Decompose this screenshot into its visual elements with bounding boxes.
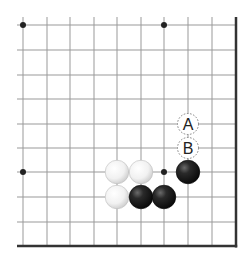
label-marker-b: B	[178, 138, 199, 159]
stones	[105, 160, 200, 209]
white-stone	[105, 185, 129, 209]
white-stone	[129, 160, 153, 184]
black-stone	[129, 185, 153, 209]
star-point	[161, 22, 167, 28]
star-point	[20, 22, 26, 28]
label-text: A	[183, 116, 194, 133]
star-point	[20, 169, 26, 175]
white-stone	[105, 160, 129, 184]
label-marker-a: A	[178, 114, 199, 135]
grid-lines	[17, 17, 236, 246]
go-board: AB	[0, 0, 248, 258]
label-text: B	[183, 140, 194, 157]
black-stone	[152, 185, 176, 209]
star-point	[161, 169, 167, 175]
board-edge	[17, 17, 237, 248]
black-stone	[176, 160, 200, 184]
